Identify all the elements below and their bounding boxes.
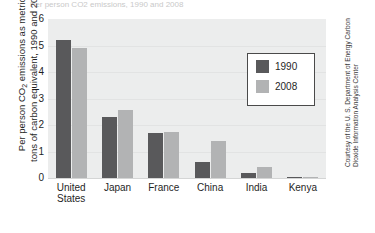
bar[interactable]	[211, 141, 226, 178]
bar[interactable]	[257, 167, 272, 178]
y-axis-label-subscript: 2	[21, 84, 28, 88]
y-axis-label: Per person CO2 emissions as metric tons …	[16, 0, 39, 165]
y-axis-label-line2: tons of carbon equivalent, 1990 and 2008	[28, 0, 39, 165]
legend-swatch-1990-icon	[256, 60, 269, 73]
legend-item-1990[interactable]: 1990	[256, 60, 314, 73]
legend-item-2008[interactable]: 2008	[256, 80, 314, 93]
axis-baseline	[48, 178, 326, 179]
legend: 1990 2008	[247, 53, 315, 106]
bar-group	[56, 19, 87, 178]
bar-group	[102, 19, 133, 178]
bar[interactable]	[72, 48, 87, 178]
y-axis-tick: 5	[22, 41, 44, 51]
bar[interactable]	[287, 177, 302, 178]
bar-group	[195, 19, 226, 178]
bar[interactable]	[118, 110, 133, 178]
source-credit-line2: Dioxide Information Analysis Center	[352, 0, 360, 167]
y-axis-tick: 4	[22, 67, 44, 77]
bar[interactable]	[241, 173, 256, 178]
legend-label-2008: 2008	[275, 82, 297, 92]
chart-figure: Per person CO2 emissions, 1990 and 2008 …	[0, 0, 375, 233]
source-credit: Courtesy of the U. S. Department of Ener…	[344, 0, 360, 167]
bar[interactable]	[164, 132, 179, 178]
cropped-title: Per person CO2 emissions, 1990 and 2008	[30, 0, 330, 9]
bar[interactable]	[303, 177, 318, 178]
y-axis-tick: 3	[22, 94, 44, 104]
bar[interactable]	[195, 162, 210, 178]
bar[interactable]	[56, 40, 71, 178]
y-axis-tick: 6	[22, 14, 44, 24]
y-axis-tick: 1	[22, 147, 44, 157]
bar[interactable]	[102, 117, 117, 178]
legend-label-1990: 1990	[275, 62, 297, 72]
bar[interactable]	[148, 133, 163, 178]
y-axis-tick: 2	[22, 120, 44, 130]
source-credit-line1: Courtesy of the U. S. Department of Ener…	[344, 0, 352, 167]
x-axis-label: Kenya	[270, 182, 336, 193]
bar-group	[148, 19, 179, 178]
legend-swatch-2008-icon	[256, 80, 269, 93]
